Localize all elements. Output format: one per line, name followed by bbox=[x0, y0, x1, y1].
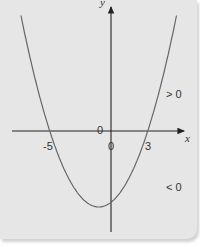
parabola-graph: y x 0 -5 0 3 > 0 < 0 bbox=[0, 0, 200, 247]
root-label-left: -5 bbox=[43, 140, 53, 152]
region-label-negative: < 0 bbox=[166, 181, 182, 193]
parabola-curve bbox=[21, 16, 177, 208]
origin-label: 0 bbox=[97, 124, 103, 136]
y-axis-label: y bbox=[99, 0, 105, 8]
zero-label: 0 bbox=[108, 140, 114, 152]
x-axis-label: x bbox=[184, 132, 190, 144]
root-label-right: 3 bbox=[145, 140, 151, 152]
region-label-positive: > 0 bbox=[166, 88, 182, 100]
